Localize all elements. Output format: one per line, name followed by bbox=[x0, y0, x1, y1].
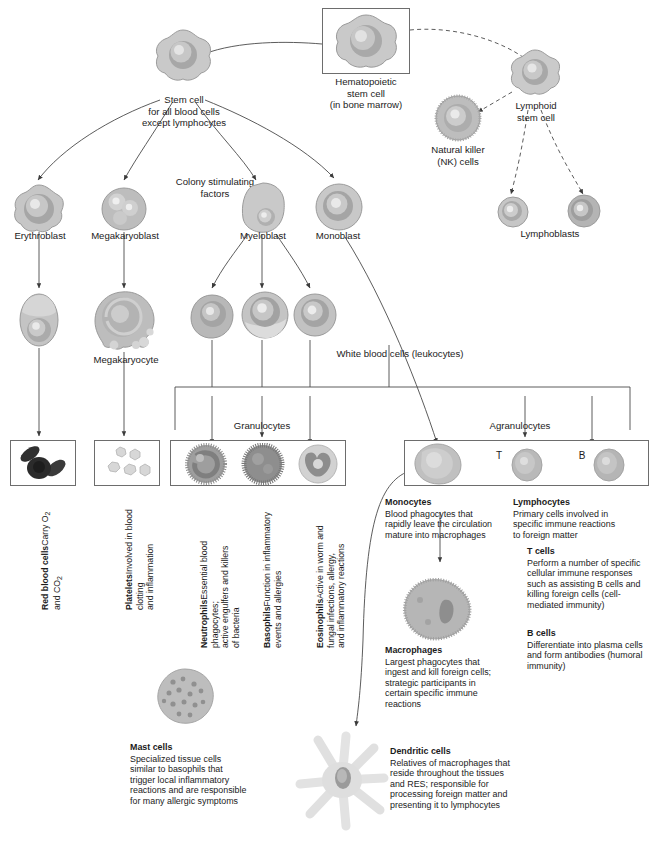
lymphoid-stem-cell-icon bbox=[508, 48, 562, 98]
text-b-cells-title: B cells bbox=[527, 628, 655, 640]
myeloid-stem-cell-label: Stem cell for all blood cells except lym… bbox=[120, 94, 248, 129]
text-t-cells: T cells Perform a number of specific cel… bbox=[527, 546, 655, 611]
lymphoblasts-label: Lymphoblasts bbox=[500, 228, 600, 240]
megakaryocyte-label: Megakaryocyte bbox=[80, 354, 172, 366]
b-cell-icon bbox=[592, 448, 626, 482]
text-macrophages: Macrophages Largest phagocytes that inge… bbox=[385, 645, 517, 710]
label-eosinophils: EosinophilsActive in worm and fungal inf… bbox=[305, 498, 347, 648]
text-mast-cells: Mast cells Specialized tissue cells simi… bbox=[130, 742, 270, 807]
mast-cell-icon bbox=[155, 668, 217, 726]
label-red-blood-cells-title: Red blood cells bbox=[40, 546, 50, 610]
text-b-cells-body: Differentiate into plasma cells and form… bbox=[527, 640, 643, 671]
hematopoietic-stem-cell-label: Hematopoietic stem cell (in bone marrow) bbox=[306, 76, 426, 111]
text-lymphocytes-title: Lymphocytes bbox=[513, 497, 651, 509]
label-eosinophils-title: Eosinophils bbox=[315, 599, 325, 648]
text-b-cells: B cells Differentiate into plasma cells … bbox=[527, 628, 655, 671]
neutrophil-icon bbox=[182, 443, 230, 485]
natural-killer-cell-icon bbox=[434, 94, 482, 142]
basophil-icon bbox=[240, 443, 286, 485]
text-monocytes-body: Blood phagocytes that rapidly leave the … bbox=[385, 509, 492, 540]
natural-killer-cell-label: Natural killer (NK) cells bbox=[404, 144, 512, 167]
text-macrophages-body: Largest phagocytes that ingest and kill … bbox=[385, 657, 491, 709]
platelets-icon bbox=[96, 442, 158, 484]
megakaryoblast-label: Megakaryoblast bbox=[82, 230, 168, 242]
white-blood-cells-label: White blood cells (leukocytes) bbox=[310, 348, 490, 360]
lymphoid-stem-cell-label: Lymphoid stem cell bbox=[494, 100, 578, 123]
lymphoblast-left-icon bbox=[496, 196, 530, 228]
granulocyte-precursor-1-icon bbox=[189, 294, 235, 340]
text-dendritic-cells-body: Relatives of macrophages that reside thr… bbox=[390, 758, 510, 810]
megakaryocyte-icon bbox=[92, 290, 160, 352]
label-basophils: BasophilsFunction in inflammatory events… bbox=[252, 498, 283, 648]
erythrocyte-precursor-icon bbox=[18, 292, 60, 348]
label-platelets-title: Platelets bbox=[124, 574, 134, 610]
hematopoiesis-diagram: Hematopoietic stem cell (in bone marrow)… bbox=[0, 0, 655, 841]
dendritic-cell-icon bbox=[294, 730, 390, 832]
erythroblast-icon bbox=[12, 184, 66, 234]
text-t-cells-title: T cells bbox=[527, 546, 655, 558]
label-neutrophils-title: Neutrophils bbox=[199, 600, 209, 648]
text-dendritic-cells: Dendritic cells Relatives of macrophages… bbox=[390, 746, 538, 811]
myeloblast-label: Myeloblast bbox=[224, 230, 302, 242]
monoblast-label: Monoblast bbox=[298, 230, 378, 242]
b-cell-marker: B bbox=[575, 450, 589, 462]
eosinophil-icon bbox=[296, 443, 340, 485]
granulocyte-precursor-3-icon bbox=[292, 292, 338, 338]
label-basophils-title: Basophils bbox=[262, 606, 272, 648]
t-cell-marker: T bbox=[492, 450, 506, 462]
text-lymphocytes: Lymphocytes Primary cells involved in sp… bbox=[513, 497, 651, 540]
myeloid-stem-cell-icon bbox=[152, 28, 214, 84]
label-platelets: PlateletsInvolved in blood clotting and … bbox=[114, 498, 156, 610]
monocyte-icon bbox=[412, 442, 464, 486]
granulocytes-label: Granulocytes bbox=[212, 420, 312, 432]
t-cell-icon bbox=[510, 448, 544, 482]
lymphoblast-right-icon bbox=[566, 194, 602, 228]
text-t-cells-body: Perform a number of specific cellular im… bbox=[527, 558, 640, 610]
text-lymphocytes-body: Primary cells involved in specific immun… bbox=[513, 509, 615, 540]
hematopoietic-stem-cell-icon bbox=[330, 12, 402, 72]
text-macrophages-title: Macrophages bbox=[385, 645, 517, 657]
text-monocytes-title: Monocytes bbox=[385, 497, 510, 509]
red-blood-cells-icon bbox=[12, 442, 74, 484]
monoblast-icon bbox=[314, 182, 364, 232]
granulocyte-precursor-2-icon bbox=[240, 290, 290, 340]
label-neutrophils: NeutrophilsEssential blood phagocytes; a… bbox=[189, 498, 241, 648]
text-mast-cells-title: Mast cells bbox=[130, 742, 270, 754]
erythroblast-label: Erythroblast bbox=[0, 230, 80, 242]
label-red-blood-cells: Red blood cellsCarry O2 and CO2 bbox=[30, 498, 63, 610]
text-mast-cells-body: Specialized tissue cells similar to baso… bbox=[130, 754, 246, 806]
macrophage-icon bbox=[400, 578, 478, 644]
myeloblast-icon bbox=[238, 182, 288, 234]
megakaryoblast-icon bbox=[100, 186, 148, 232]
text-dendritic-cells-title: Dendritic cells bbox=[390, 746, 538, 758]
text-monocytes: Monocytes Blood phagocytes that rapidly … bbox=[385, 497, 510, 540]
agranulocytes-label: Agranulocytes bbox=[430, 420, 610, 432]
